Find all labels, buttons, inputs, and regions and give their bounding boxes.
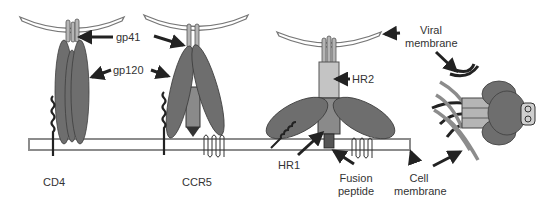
- label-gp120: gp120: [113, 64, 144, 77]
- gp120-remnants-4: [482, 81, 526, 145]
- arrow-viral-membrane-3: [385, 33, 400, 34]
- gp120-trimer-1: [55, 40, 89, 144]
- label-viral-membrane-line2: membrane: [405, 37, 457, 50]
- cd4-receptor: [52, 96, 55, 156]
- arrow-fusion-peptide: [334, 151, 354, 164]
- label-hr2: HR2: [352, 73, 374, 86]
- label-fusion-peptide: Fusion peptide: [338, 172, 374, 198]
- diagram-canvas: [0, 0, 547, 213]
- arrow-cell-membrane-3: [411, 152, 415, 163]
- label-gp41: gp41: [116, 31, 140, 44]
- label-cell-membrane-line1: Cell: [394, 172, 444, 185]
- arrow-viral-membrane-4: [436, 52, 456, 71]
- helix-end-detail: [521, 103, 535, 125]
- label-ccr5: CCR5: [182, 176, 212, 189]
- label-cell-membrane-line2: membrane: [394, 185, 444, 198]
- label-viral-membrane: Viral membrane: [405, 24, 457, 50]
- arrow-gp120-2: [151, 70, 168, 76]
- arrow-gp120-1: [92, 70, 111, 77]
- gp41-trimer-1: [66, 19, 79, 42]
- fusion-peptide: [324, 134, 334, 148]
- arrow-cell-membrane-4: [433, 152, 460, 166]
- label-cell-membrane: Cell membrane: [394, 172, 444, 198]
- label-fusion-peptide-line2: peptide: [338, 185, 374, 198]
- arrow-gp41-2: [154, 36, 183, 45]
- hiv-entry-diagram: gp41 gp120 CD4 CCR5 HR2 HR1 Fusion pepti…: [0, 0, 547, 213]
- label-cd4: CD4: [43, 176, 65, 189]
- label-fusion-peptide-line1: Fusion: [338, 172, 374, 185]
- cd4-receptor-2: [163, 92, 166, 155]
- gp41-stalks-3: [322, 36, 336, 64]
- label-hr1: HR1: [278, 159, 300, 172]
- label-viral-membrane-line1: Viral: [405, 24, 457, 37]
- stage-4-six-helix-bundle: [432, 64, 535, 160]
